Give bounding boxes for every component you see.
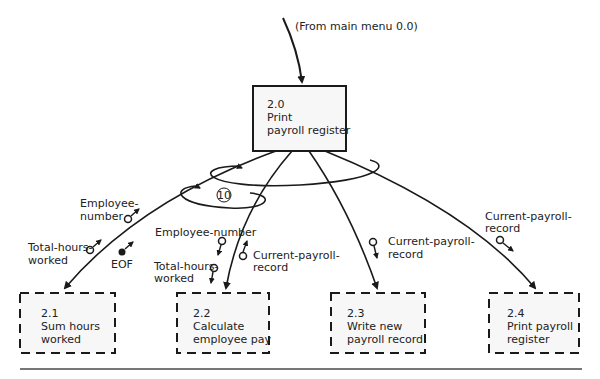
module-name-2: worked bbox=[41, 333, 81, 346]
couple-employee-number-2-2 bbox=[218, 238, 226, 256]
module-id: 2.1 bbox=[41, 307, 59, 320]
module-2-1[interactable]: 2.1 Sum hours worked bbox=[20, 293, 115, 353]
label-total-hours-2-2b: worked bbox=[154, 272, 194, 285]
module-2-3[interactable]: 2.3 Write new payroll record bbox=[331, 293, 425, 353]
couple-employee-number-2-1 bbox=[125, 209, 140, 223]
module-name-1: Sum hours bbox=[41, 320, 100, 333]
couple-current-payroll-record-2-3 bbox=[370, 239, 378, 259]
module-name-1: Calculate bbox=[193, 320, 245, 333]
loop-count: 10 bbox=[217, 189, 231, 202]
module-name-2: payroll register bbox=[267, 124, 351, 137]
module-name-2: employee pay bbox=[193, 333, 272, 346]
module-name-2: register bbox=[507, 333, 550, 346]
couple-current-payroll-record-2-2 bbox=[240, 241, 248, 260]
label-current-payroll-2-3b: record bbox=[388, 248, 423, 261]
module-id: 2.2 bbox=[193, 307, 211, 320]
module-id: 2.4 bbox=[507, 307, 525, 320]
module-2-0[interactable]: 2.0 Print payroll register bbox=[253, 86, 351, 151]
module-2-4[interactable]: 2.4 Print payroll register bbox=[489, 293, 579, 353]
loop-icon bbox=[181, 160, 379, 208]
structure-chart: (From main menu 0.0) 2.0 Print payroll r… bbox=[0, 0, 600, 379]
label-employee-number-2-2: Employee-number bbox=[155, 226, 257, 239]
label-current-payroll-2-4b: record bbox=[485, 222, 520, 235]
label-total-hours-2: worked bbox=[28, 254, 68, 267]
couple-current-payroll-record-2-4 bbox=[497, 237, 514, 252]
label-current-payroll-2-2b: record bbox=[253, 261, 288, 274]
label-current-payroll-2-3: Current-payroll- bbox=[388, 235, 475, 248]
label-total-hours: Total-hours- bbox=[27, 241, 93, 254]
source-note: (From main menu 0.0) bbox=[295, 20, 418, 33]
module-name-1: Print bbox=[267, 111, 293, 124]
module-name-2: payroll record bbox=[347, 333, 423, 346]
label-eof: EOF bbox=[111, 258, 133, 271]
couple-eof-flag bbox=[119, 242, 134, 256]
module-id: 2.0 bbox=[267, 98, 285, 111]
label-employee-number-2: number bbox=[80, 210, 123, 223]
module-name-1: Print payroll bbox=[507, 320, 573, 333]
module-name-1: Write new bbox=[347, 320, 402, 333]
module-id: 2.3 bbox=[347, 307, 365, 320]
module-2-2[interactable]: 2.2 Calculate employee pay bbox=[177, 293, 272, 353]
call-lines bbox=[65, 151, 535, 288]
label-employee-number: Employee- bbox=[80, 197, 138, 210]
